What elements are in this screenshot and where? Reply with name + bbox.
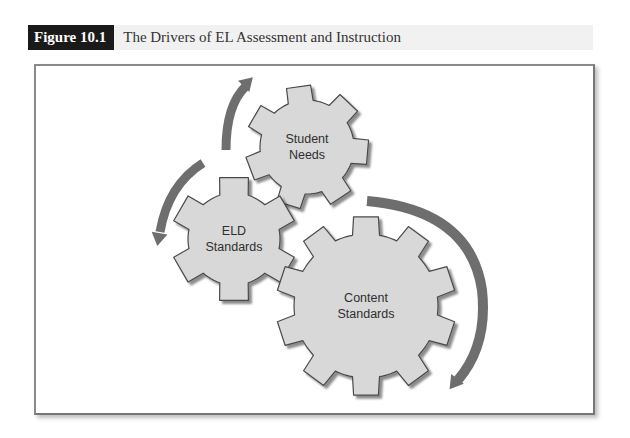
gear-icon <box>174 178 295 301</box>
arrow-head-icon <box>149 232 167 248</box>
gear-icon <box>277 217 454 395</box>
gear-eld-standards: ELDStandards <box>174 178 295 301</box>
arrow-to-student-needs <box>226 72 258 150</box>
gear-label-line: Standards <box>206 240 263 254</box>
gear-label-line: Standards <box>338 307 395 321</box>
gears: StudentNeedsELDStandardsContentStandards <box>174 85 455 395</box>
gear-label-line: Student <box>285 132 329 146</box>
gear-content-standards: ContentStandards <box>277 217 454 395</box>
gears-diagram: StudentNeedsELDStandardsContentStandards <box>0 0 630 438</box>
gear-icon <box>246 85 369 209</box>
gear-label-line: ELD <box>222 224 246 238</box>
gear-label-line: Content <box>344 291 388 305</box>
gear-student-needs: StudentNeeds <box>246 85 369 209</box>
gear-label-line: Needs <box>289 148 325 162</box>
arrow-shaft <box>226 86 246 150</box>
